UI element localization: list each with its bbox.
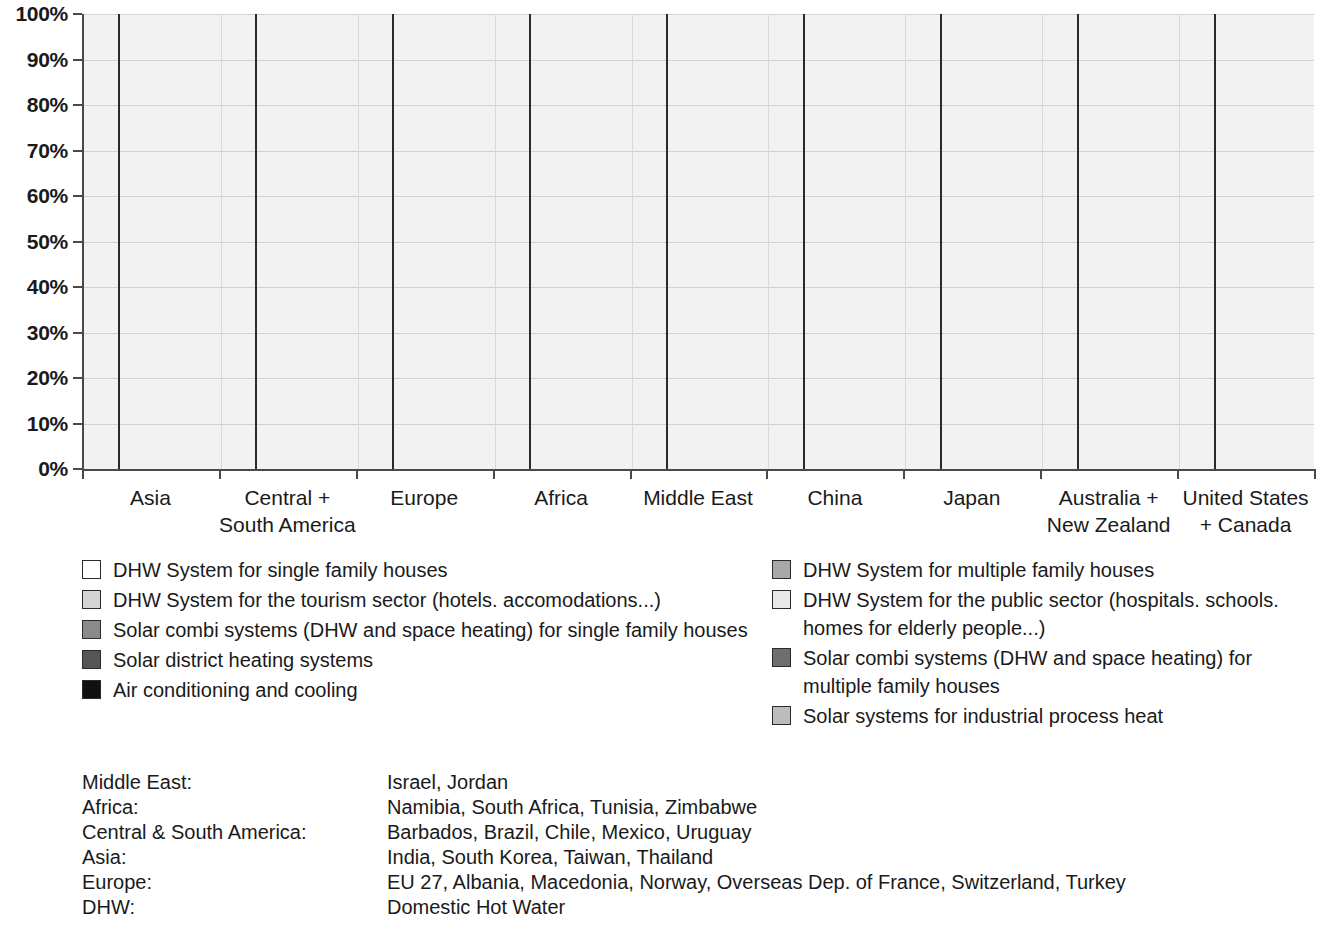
chart-page: 0%10%20%30%40%50%60%70%80%90%100% AsiaCe…	[0, 0, 1325, 939]
legend-item[interactable]: DHW System for single family houses	[82, 556, 772, 584]
category-divider	[632, 14, 633, 469]
y-tick-label: 10%	[27, 412, 68, 436]
footnote-value: Namibia, South Africa, Tunisia, Zimbabwe	[387, 795, 757, 820]
bar[interactable]	[118, 14, 120, 469]
y-tick-mark	[73, 332, 82, 334]
y-tick-mark	[73, 468, 82, 470]
x-tick-mark	[1177, 469, 1179, 479]
footnote-value: Barbados, Brazil, Chile, Mexico, Uruguay	[387, 820, 752, 845]
x-tick-mark	[82, 469, 84, 479]
footnote-key: Asia:	[82, 845, 387, 870]
legend-swatch-icon	[772, 560, 791, 579]
footnote-key: Africa:	[82, 795, 387, 820]
y-tick-mark	[73, 423, 82, 425]
legend-item[interactable]: Solar combi systems (DHW and space heati…	[772, 644, 1317, 700]
y-tick-mark	[73, 286, 82, 288]
footnote-value: EU 27, Albania, Macedonia, Norway, Overs…	[387, 870, 1126, 895]
legend-item[interactable]: Solar district heating systems	[82, 646, 772, 674]
legend-swatch-icon	[772, 706, 791, 725]
y-tick-label: 60%	[27, 184, 68, 208]
gridline	[84, 151, 1314, 152]
footnote-key: Central & South America:	[82, 820, 387, 845]
footnote-row: DHW:Domestic Hot Water	[82, 895, 1322, 920]
footnote-row: Europe:EU 27, Albania, Macedonia, Norway…	[82, 870, 1322, 895]
gridline	[84, 14, 1314, 15]
x-axis-label: United States + Canada	[1165, 484, 1325, 538]
y-tick-mark	[73, 104, 82, 106]
x-tick-mark	[493, 469, 495, 479]
x-tick-mark	[1040, 469, 1042, 479]
y-tick-label: 100%	[15, 2, 68, 26]
legend-label: DHW System for the public sector (hospit…	[803, 586, 1317, 642]
legend-item[interactable]: Air conditioning and cooling	[82, 676, 772, 704]
y-tick-mark	[73, 150, 82, 152]
footnote-key: DHW:	[82, 895, 387, 920]
legend-item[interactable]: DHW System for multiple family houses	[772, 556, 1317, 584]
legend-swatch-icon	[772, 590, 791, 609]
y-tick-mark	[73, 13, 82, 15]
bar[interactable]	[392, 14, 394, 469]
x-tick-mark	[766, 469, 768, 479]
legend: DHW System for single family housesDHW S…	[0, 556, 1325, 761]
gridline	[84, 287, 1314, 288]
y-tick-label: 50%	[27, 230, 68, 254]
legend-swatch-icon	[772, 648, 791, 667]
bar[interactable]	[255, 14, 257, 469]
gridline	[84, 378, 1314, 379]
legend-item[interactable]: DHW System for the public sector (hospit…	[772, 586, 1317, 642]
legend-label: Air conditioning and cooling	[113, 676, 358, 704]
bar[interactable]	[666, 14, 668, 469]
legend-label: Solar district heating systems	[113, 646, 373, 674]
gridline	[84, 242, 1314, 243]
y-tick-label: 20%	[27, 366, 68, 390]
y-tick-label: 40%	[27, 275, 68, 299]
y-tick-mark	[73, 377, 82, 379]
legend-item[interactable]: Solar systems for industrial process hea…	[772, 702, 1317, 730]
footnote-value: India, South Korea, Taiwan, Thailand	[387, 845, 713, 870]
y-tick-label: 80%	[27, 93, 68, 117]
legend-label: DHW System for the tourism sector (hotel…	[113, 586, 661, 614]
bar[interactable]	[1077, 14, 1079, 469]
y-tick-label: 30%	[27, 321, 68, 345]
y-tick-mark	[73, 59, 82, 61]
footnote-row: Central & South America:Barbados, Brazil…	[82, 820, 1322, 845]
legend-item[interactable]: DHW System for the tourism sector (hotel…	[82, 586, 772, 614]
category-divider	[1042, 14, 1043, 469]
x-axis-line	[82, 469, 1314, 471]
legend-label: Solar combi systems (DHW and space heati…	[803, 644, 1317, 700]
legend-label: DHW System for multiple family houses	[803, 556, 1154, 584]
legend-swatch-icon	[82, 560, 101, 579]
plot-area	[82, 14, 1314, 469]
legend-column-left: DHW System for single family housesDHW S…	[82, 556, 772, 706]
legend-swatch-icon	[82, 680, 101, 699]
y-tick-label: 70%	[27, 139, 68, 163]
legend-label: DHW System for single family houses	[113, 556, 448, 584]
gridline	[84, 60, 1314, 61]
y-tick-label: 90%	[27, 48, 68, 72]
y-tick-mark	[73, 241, 82, 243]
footnote-row: Middle East:Israel, Jordan	[82, 770, 1322, 795]
legend-item[interactable]: Solar combi systems (DHW and space heati…	[82, 616, 772, 644]
bar[interactable]	[529, 14, 531, 469]
category-divider	[358, 14, 359, 469]
category-divider	[495, 14, 496, 469]
legend-swatch-icon	[82, 620, 101, 639]
gridline	[84, 196, 1314, 197]
footnote-value: Israel, Jordan	[387, 770, 508, 795]
footnotes: Middle East:Israel, JordanAfrica:Namibia…	[82, 770, 1322, 920]
footnote-row: Africa:Namibia, South Africa, Tunisia, Z…	[82, 795, 1322, 820]
bar[interactable]	[1214, 14, 1216, 469]
y-tick-label: 0%	[38, 457, 68, 481]
footnote-value: Domestic Hot Water	[387, 895, 565, 920]
legend-column-right: DHW System for multiple family housesDHW…	[772, 556, 1317, 732]
y-tick-mark	[73, 195, 82, 197]
footnote-key: Europe:	[82, 870, 387, 895]
bar[interactable]	[940, 14, 942, 469]
stacked-bar-chart: 0%10%20%30%40%50%60%70%80%90%100% AsiaCe…	[0, 0, 1325, 495]
footnote-row: Asia:India, South Korea, Taiwan, Thailan…	[82, 845, 1322, 870]
x-tick-mark	[903, 469, 905, 479]
category-divider	[1179, 14, 1180, 469]
bar[interactable]	[803, 14, 805, 469]
legend-label: Solar systems for industrial process hea…	[803, 702, 1163, 730]
legend-swatch-icon	[82, 590, 101, 609]
